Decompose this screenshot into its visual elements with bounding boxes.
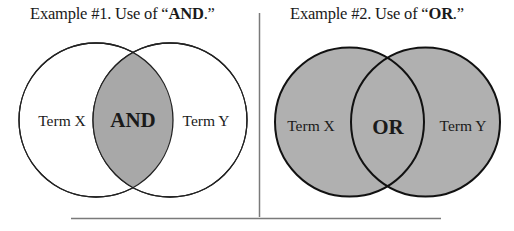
term-x-label: Term X bbox=[38, 112, 86, 129]
or-operator-label: OR bbox=[372, 115, 404, 139]
venn-or-diagram: Term X OR Term Y bbox=[275, 48, 500, 197]
term-x-label: Term X bbox=[287, 117, 335, 134]
term-y-label: Term Y bbox=[183, 112, 230, 129]
venn-and-diagram: Term X AND Term Y bbox=[19, 43, 247, 197]
venn-diagrams: Term X AND Term Y Term X OR Term Y bbox=[0, 0, 514, 231]
term-y-label: Term Y bbox=[440, 117, 487, 134]
and-operator-label: AND bbox=[110, 108, 156, 132]
